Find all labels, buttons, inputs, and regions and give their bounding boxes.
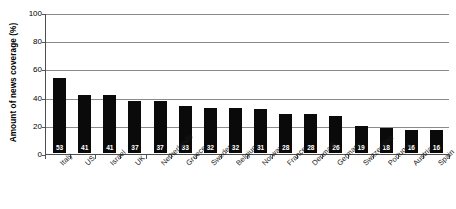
x-label-slot: Denmark xyxy=(298,159,323,209)
bar-slot: 32 xyxy=(198,14,223,153)
y-tick-label: 40 xyxy=(20,95,42,103)
bar-slot: 19 xyxy=(349,14,374,153)
bar-slot: 16 xyxy=(424,14,449,153)
bar-value-label: 32 xyxy=(207,144,214,153)
bar[interactable]: 41 xyxy=(78,95,91,153)
x-axis-labels: ItalyUSIsraelUKNetherlandsGreeceSwedenBe… xyxy=(45,159,449,209)
x-label-slot: Italy xyxy=(45,159,70,209)
x-label-slot: Portugal xyxy=(373,159,398,209)
bar-slot: 33 xyxy=(173,14,198,153)
x-label-slot: France xyxy=(272,159,297,209)
y-tick-label: 100 xyxy=(20,10,42,18)
y-axis-title: Amount of news coverage (%) xyxy=(9,8,18,158)
x-label-slot: UK xyxy=(121,159,146,209)
x-label-slot: Greece xyxy=(171,159,196,209)
x-label-slot: Israel xyxy=(96,159,121,209)
bar-value-label: 28 xyxy=(307,144,314,153)
bar-value-label: 41 xyxy=(106,144,113,153)
y-tick-label: 60 xyxy=(20,66,42,74)
bar-slot: 32 xyxy=(223,14,248,153)
x-label-slot: Spain xyxy=(424,159,449,209)
bar-slot: 37 xyxy=(148,14,173,153)
y-tick-label: 80 xyxy=(20,38,42,46)
bar-slot: 41 xyxy=(97,14,122,153)
x-label-slot: Austria xyxy=(399,159,424,209)
bar-slot: 31 xyxy=(248,14,273,153)
y-tick-label: 0 xyxy=(20,151,42,159)
bar-value-label: 16 xyxy=(433,144,440,153)
x-label-slot: Germany xyxy=(323,159,348,209)
bar-slot: 18 xyxy=(374,14,399,153)
bar[interactable]: 28 xyxy=(304,114,317,153)
x-label-slot: US xyxy=(70,159,95,209)
bar-slot: 53 xyxy=(47,14,72,153)
x-label-slot: Netherlands xyxy=(146,159,171,209)
bar-value-label: 41 xyxy=(81,144,88,153)
bar-value-label: 53 xyxy=(56,144,63,153)
bar-slot: 26 xyxy=(323,14,348,153)
bar[interactable]: 32 xyxy=(204,108,217,153)
x-label-slot: Norway xyxy=(247,159,272,209)
bar-slot: 16 xyxy=(399,14,424,153)
bar[interactable]: 53 xyxy=(53,78,66,153)
bar[interactable]: 37 xyxy=(154,101,167,153)
bar-slot: 41 xyxy=(72,14,97,153)
y-axis-ticks: 020406080100 xyxy=(20,14,42,155)
bar-value-label: 37 xyxy=(156,144,163,153)
x-label-slot: Belgium xyxy=(222,159,247,209)
y-tick-label: 20 xyxy=(20,123,42,131)
bar-slot: 28 xyxy=(273,14,298,153)
x-label-slot: Switzerland xyxy=(348,159,373,209)
bar-value-label: 37 xyxy=(131,144,138,153)
bar[interactable]: 41 xyxy=(103,95,116,153)
x-label-slot: Sweden xyxy=(197,159,222,209)
bar-slot: 37 xyxy=(122,14,147,153)
bar[interactable]: 37 xyxy=(128,101,141,153)
bar-slot: 28 xyxy=(298,14,323,153)
